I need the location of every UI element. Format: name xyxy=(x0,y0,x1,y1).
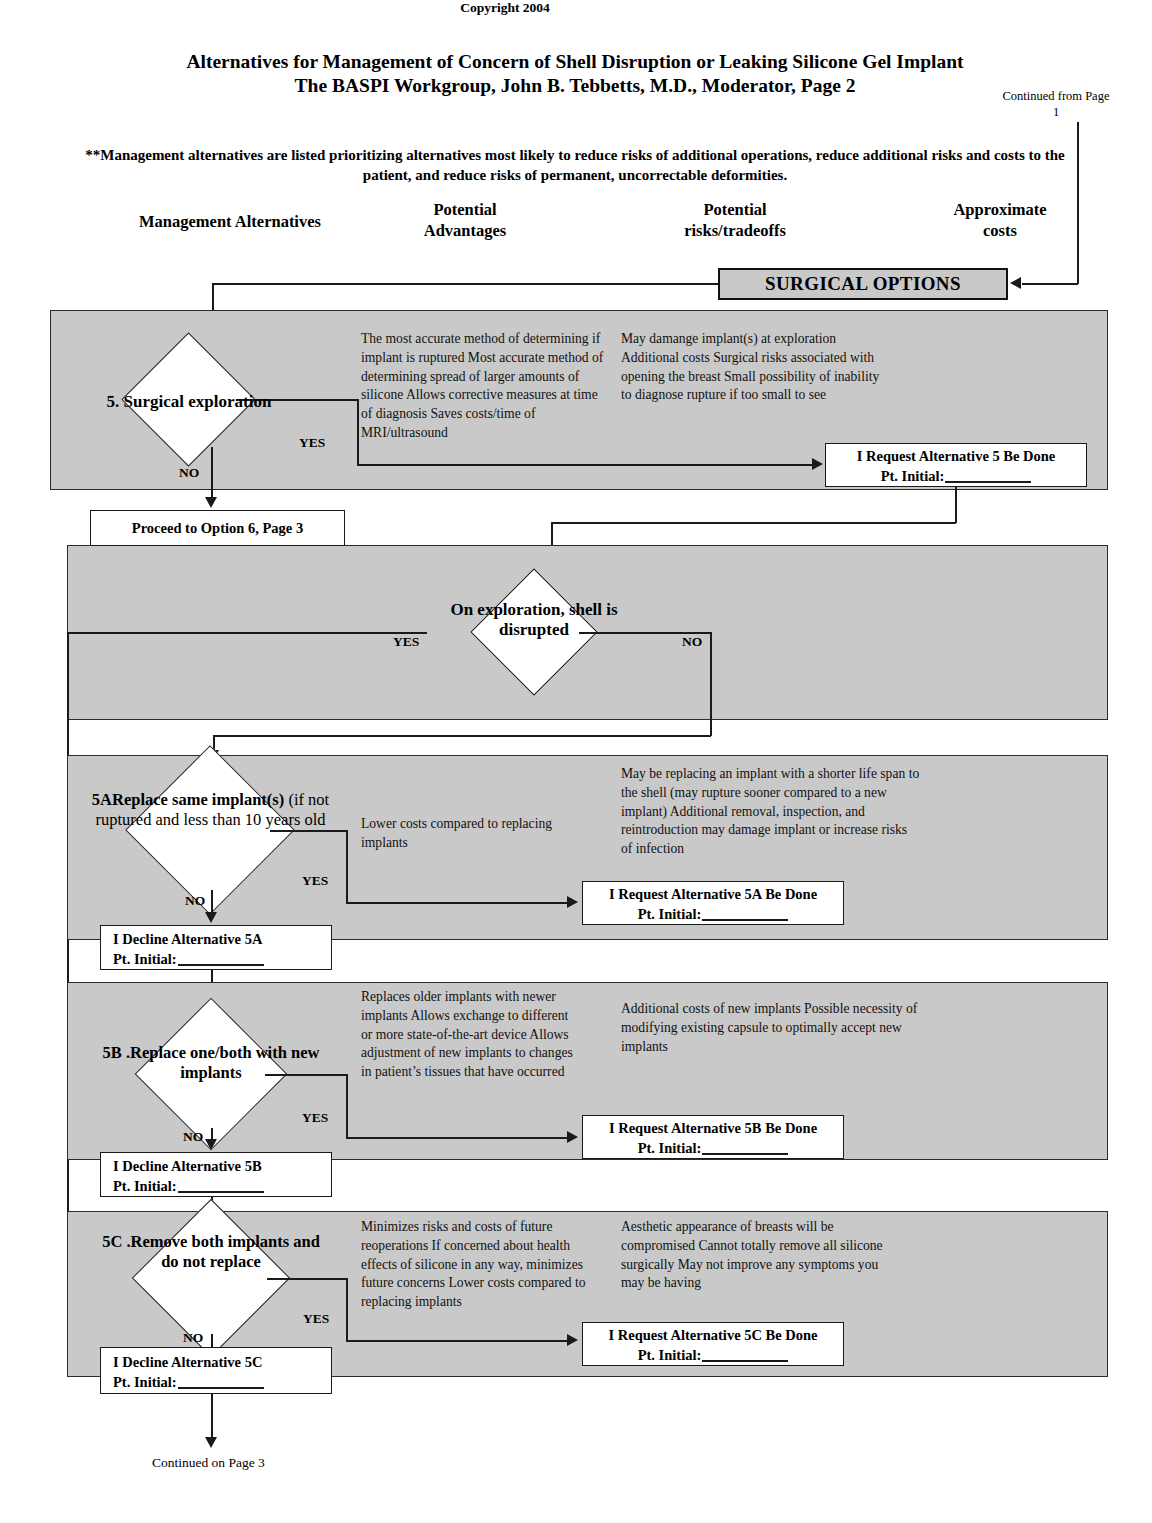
request-fivea-initial-blank[interactable] xyxy=(702,919,788,921)
connector-exploration-yes-h xyxy=(67,632,427,634)
document-page: Alternatives for Management of Concern o… xyxy=(0,0,1152,1523)
decline-fiveb-initial-blank[interactable] xyxy=(178,1191,264,1193)
connector-five-yes-h2 xyxy=(357,464,813,466)
fiveb-advantages-text: Replaces older implants with newer impla… xyxy=(361,988,581,1082)
five-risks-text: May damange implant(s) at exploration Ad… xyxy=(621,330,883,405)
connector-fivea-yes-h2 xyxy=(346,902,568,904)
request-five-initial-blank[interactable] xyxy=(945,481,1031,483)
connector-exploration-no-h2 xyxy=(213,735,711,737)
connector-exploration-no-v1 xyxy=(710,632,712,736)
request-fivea-line1: I Request Alternative 5A Be Done xyxy=(583,885,843,905)
column-header-potential-advantages: Potential Advantages xyxy=(355,200,575,241)
decline-fivea-initial-blank[interactable] xyxy=(178,964,264,966)
connector-exploration-yes-v xyxy=(67,632,69,1277)
request-fiveb-line1: I Request Alternative 5B Be Done xyxy=(583,1119,843,1139)
arrowhead-into-proceed xyxy=(205,497,217,508)
column-header-management-alternatives: Management Alternatives xyxy=(85,212,375,233)
column-header-potential-risks: Potential risks/tradeoffs xyxy=(620,200,850,241)
request-alternative-fiveb-box[interactable]: I Request Alternative 5B Be Done Pt. Ini… xyxy=(582,1115,844,1159)
decline-fivec-line1: I Decline Alternative 5C xyxy=(113,1353,331,1373)
connector-fivea-yes-h1 xyxy=(270,830,347,832)
copyright-notice: Copyright 2004 xyxy=(0,0,1010,16)
connector-fivec-yes-v xyxy=(346,1278,348,1341)
decline-fiveb-line2: Pt. Initial: xyxy=(113,1178,177,1194)
prioritization-note: **Management alternatives are listed pri… xyxy=(60,146,1090,185)
request-alternative-fivea-box[interactable]: I Request Alternative 5A Be Done Pt. Ini… xyxy=(582,881,844,925)
continued-on-page-note: Continued on Page 3 xyxy=(152,1455,265,1471)
arrowhead-into-decline-fivea xyxy=(205,912,217,923)
decline-fiveb-line1: I Decline Alternative 5B xyxy=(113,1157,331,1177)
decline-alternative-fivec-box[interactable]: I Decline Alternative 5C Pt. Initial: xyxy=(100,1347,332,1394)
request-fivec-initial-blank[interactable] xyxy=(702,1360,788,1362)
decline-fivec-line2: Pt. Initial: xyxy=(113,1374,177,1390)
connector-five-yes-h1 xyxy=(236,399,358,401)
arrowhead-into-request-five xyxy=(812,458,823,470)
connector-fiveb-yes-v xyxy=(346,1074,348,1138)
connector-fiveb-yes-h1 xyxy=(265,1074,347,1076)
decision-fiveb-yes-label: YES xyxy=(302,1110,328,1126)
connector-decline-fivec-v xyxy=(211,1394,213,1443)
decision-fivec-yes-label: YES xyxy=(303,1311,329,1327)
request-fiveb-initial-blank[interactable] xyxy=(702,1153,788,1155)
column-header-approximate-costs: Approximate costs xyxy=(905,200,1095,241)
connector-fivec-yes-h2 xyxy=(346,1340,568,1342)
decision-exploration-no-label: NO xyxy=(682,634,702,650)
connector-five-yes-v xyxy=(357,399,359,465)
fivea-risks-text: May be replacing an implant with a short… xyxy=(621,765,921,859)
request-alternative-five-box[interactable]: I Request Alternative 5 Be Done Pt. Init… xyxy=(825,443,1087,487)
request-fiveb-line2: Pt. Initial: xyxy=(638,1140,702,1156)
connector-request-five-h xyxy=(551,522,956,524)
connector-fiveb-yes-h2 xyxy=(346,1137,568,1139)
proceed-label: Proceed to Option 6, Page 3 xyxy=(132,520,303,537)
continued-from-note: Continued from Page 1 xyxy=(1000,88,1112,121)
request-alternative-fivec-box[interactable]: I Request Alternative 5C Be Done Pt. Ini… xyxy=(582,1322,844,1366)
decline-alternative-fiveb-box[interactable]: I Decline Alternative 5B Pt. Initial: xyxy=(100,1152,332,1197)
decline-fivea-line1: I Decline Alternative 5A xyxy=(113,930,331,950)
page-title: Alternatives for Management of Concern o… xyxy=(70,50,1080,99)
decision-five-no-label: NO xyxy=(179,465,199,481)
arrowhead-into-request-fivea xyxy=(567,896,578,908)
request-five-line1: I Request Alternative 5 Be Done xyxy=(826,447,1086,467)
request-fivec-line1: I Request Alternative 5C Be Done xyxy=(583,1326,843,1346)
decision-fivea-yes-label: YES xyxy=(302,873,328,889)
decision-fivea-no-label: NO xyxy=(185,893,205,909)
connector-continued-from-vertical xyxy=(1077,122,1079,284)
connector-banner-to-five-horizontal xyxy=(212,283,720,285)
connector-five-no-vertical xyxy=(211,447,213,503)
request-five-line2: Pt. Initial: xyxy=(881,468,945,484)
arrowhead-into-banner xyxy=(1010,277,1021,289)
connector-continued-from-horizontal xyxy=(1022,283,1078,285)
decline-fivec-initial-blank[interactable] xyxy=(178,1387,264,1389)
proceed-to-option-six-box[interactable]: Proceed to Option 6, Page 3 xyxy=(90,510,345,546)
arrowhead-into-decline-fiveb xyxy=(205,1139,217,1150)
request-fivec-line2: Pt. Initial: xyxy=(638,1347,702,1363)
decision-five-yes-label: YES xyxy=(299,435,325,451)
connector-fivec-yes-h1 xyxy=(267,1278,347,1280)
connector-request-five-v1 xyxy=(955,487,957,523)
title-line-2: The BASPI Workgroup, John B. Tebbetts, M… xyxy=(70,74,1080,98)
decline-fivea-line2: Pt. Initial: xyxy=(113,951,177,967)
request-fivea-line2: Pt. Initial: xyxy=(638,906,702,922)
title-line-1: Alternatives for Management of Concern o… xyxy=(70,50,1080,74)
fivec-risks-text: Aesthetic appearance of breasts will be … xyxy=(621,1218,901,1293)
decision-fiveb-no-label: NO xyxy=(183,1129,203,1145)
fivec-advantages-text: Minimizes risks and costs of future reop… xyxy=(361,1218,593,1312)
five-advantages-text: The most accurate method of determining … xyxy=(361,330,611,443)
fivea-advantages-text: Lower costs compared to replacing implan… xyxy=(361,815,591,853)
arrowhead-into-continued-on xyxy=(205,1437,217,1448)
connector-fivea-yes-v xyxy=(346,830,348,903)
surgical-options-banner: SURGICAL OPTIONS xyxy=(718,268,1008,300)
decision-fivec-no-label: NO xyxy=(183,1330,203,1346)
fiveb-risks-text: Additional costs of new implants Possibl… xyxy=(621,1000,921,1056)
arrowhead-into-request-fiveb xyxy=(567,1131,578,1143)
decision-exploration-yes-label: YES xyxy=(393,634,419,650)
arrowhead-into-request-fivec xyxy=(567,1334,578,1346)
decline-alternative-fivea-box[interactable]: I Decline Alternative 5A Pt. Initial: xyxy=(100,925,332,970)
